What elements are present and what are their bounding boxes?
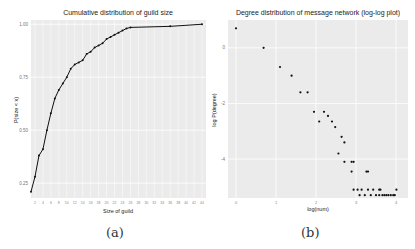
x-tick-label: 10 — [65, 201, 69, 205]
x-tick-label: 4 — [42, 201, 44, 205]
y-axis-label: P(size < x) — [13, 97, 19, 123]
data-point — [42, 148, 44, 150]
x-tick-label: 42 — [192, 201, 196, 205]
data-point — [331, 120, 333, 122]
caption-b: (b) — [301, 225, 319, 240]
data-point — [106, 38, 108, 40]
y-axis-label: log P(degree) — [211, 93, 217, 126]
data-point — [343, 161, 345, 163]
data-point — [125, 27, 127, 29]
x-tick-label: 28 — [136, 201, 140, 205]
data-point — [46, 129, 48, 131]
data-point — [367, 170, 369, 172]
y-tick-label: 0.75 — [19, 75, 28, 80]
data-point — [94, 47, 96, 49]
data-point — [357, 189, 359, 191]
data-point — [361, 189, 363, 191]
degree-chart: Degree distribution of message network (… — [210, 0, 415, 249]
data-point — [34, 176, 36, 178]
data-point — [372, 189, 374, 191]
y-tick-label: 0.25 — [19, 181, 28, 186]
y-axis-ticks: 0.250.500.751.00 — [19, 22, 28, 186]
data-point — [385, 194, 387, 196]
data-point — [263, 47, 265, 49]
y-tick-label: 1.00 — [19, 22, 28, 27]
x-axis-label: Size of guild — [103, 208, 133, 214]
x-tick-label: 24 — [121, 201, 125, 205]
cdf-chart: Cumulative distribution of guild size 0.… — [0, 0, 210, 249]
data-point — [118, 32, 120, 34]
x-tick-label: 2 — [315, 200, 318, 205]
data-point — [394, 194, 396, 196]
data-point — [351, 170, 353, 172]
x-tick-label: 38 — [176, 201, 180, 205]
data-point — [66, 76, 68, 78]
data-point — [387, 194, 389, 196]
data-point — [383, 194, 385, 196]
data-point — [291, 75, 293, 77]
x-tick-label: 8 — [58, 201, 60, 205]
data-point — [62, 83, 64, 85]
x-tick-label: 3 — [355, 200, 358, 205]
data-point — [381, 194, 383, 196]
data-point — [313, 111, 315, 113]
data-point — [102, 42, 104, 44]
x-axis-ticks: 01234 — [235, 200, 398, 205]
data-point — [327, 115, 329, 117]
y-tick-label: 0 — [222, 45, 225, 50]
data-point — [395, 189, 397, 191]
data-point — [114, 34, 116, 36]
data-point — [58, 89, 60, 91]
x-axis-ticks: 2468101214161820222426283032343638404244 — [34, 201, 204, 205]
data-point — [341, 136, 343, 138]
data-point — [318, 120, 320, 122]
x-tick-label: 6 — [50, 201, 52, 205]
x-tick-label: 30 — [144, 201, 148, 205]
x-tick-label: 32 — [152, 201, 156, 205]
y-tick-label: -2 — [221, 101, 225, 106]
data-point — [353, 189, 355, 191]
data-point — [378, 194, 380, 196]
x-tick-label: 4 — [395, 200, 398, 205]
x-tick-label: 0 — [235, 200, 238, 205]
data-point — [169, 25, 171, 27]
y-axis-ticks: 0-2-4 — [221, 45, 226, 161]
caption-a: (a) — [106, 225, 124, 240]
y-tick-label: -4 — [221, 157, 225, 162]
data-point — [375, 194, 377, 196]
figure-b: Degree distribution of message network (… — [210, 0, 415, 249]
data-point — [299, 91, 301, 93]
data-point — [74, 64, 76, 66]
data-point — [334, 126, 336, 128]
data-point — [307, 91, 309, 93]
data-point — [70, 68, 72, 70]
data-point — [279, 66, 281, 68]
data-point — [390, 194, 392, 196]
x-tick-label: 26 — [128, 201, 132, 205]
x-tick-label: 18 — [97, 201, 101, 205]
data-point — [379, 189, 381, 191]
data-point — [351, 161, 353, 163]
data-point — [90, 51, 92, 53]
x-axis-label: log(num) — [307, 206, 329, 212]
data-point — [201, 23, 203, 25]
plot-panel — [31, 20, 206, 198]
x-tick-label: 36 — [168, 201, 172, 205]
x-tick-label: 12 — [73, 201, 77, 205]
x-tick-label: 40 — [184, 201, 188, 205]
x-tick-label: 20 — [105, 201, 109, 205]
x-tick-label: 44 — [200, 201, 204, 205]
chart-title: Cumulative distribution of guild size — [63, 9, 173, 17]
x-tick-label: 22 — [113, 201, 117, 205]
data-point — [370, 194, 372, 196]
x-tick-label: 14 — [81, 201, 85, 205]
data-point — [367, 189, 369, 191]
data-point — [38, 155, 40, 157]
data-point — [82, 59, 84, 61]
plot-panel — [228, 20, 408, 198]
x-tick-label: 34 — [160, 201, 164, 205]
data-point — [323, 111, 325, 113]
y-tick-label: 0.50 — [19, 128, 28, 133]
data-point — [54, 97, 56, 99]
data-point — [353, 161, 355, 163]
